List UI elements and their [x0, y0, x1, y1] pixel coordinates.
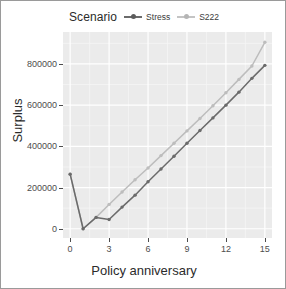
- legend-label-stress: Stress: [146, 12, 170, 22]
- data-point: [237, 78, 240, 81]
- y-tick-label: 800000: [1, 59, 57, 69]
- legend-item-s222[interactable]: S222: [177, 10, 219, 24]
- gridlines-minor: [63, 32, 272, 238]
- legend-key-stress-icon: [124, 10, 142, 24]
- y-tick-label: 200000: [1, 183, 57, 193]
- data-point: [263, 41, 266, 44]
- plot-area: [63, 32, 272, 238]
- x-tick-label: 6: [146, 244, 151, 254]
- y-tick-label: 0: [1, 224, 57, 234]
- data-point: [185, 142, 188, 145]
- x-tick-mark: [187, 238, 188, 242]
- data-point: [250, 64, 253, 67]
- data-point: [146, 180, 149, 183]
- legend-title: Scenario: [69, 10, 117, 24]
- x-tick-mark: [265, 238, 266, 242]
- data-point: [263, 64, 266, 67]
- x-tick-label: 15: [260, 244, 270, 254]
- x-tick-label: 9: [184, 244, 189, 254]
- x-tick-mark: [109, 238, 110, 242]
- data-point: [159, 154, 162, 157]
- legend-label-s222: S222: [199, 12, 219, 22]
- x-tick-mark: [148, 238, 149, 242]
- legend-item-stress[interactable]: Stress: [124, 10, 170, 24]
- data-point: [81, 227, 84, 230]
- data-point: [211, 104, 214, 107]
- data-point: [120, 190, 123, 193]
- chart-figure: Scenario Stress S222 Surplus Policy anni…: [0, 0, 286, 289]
- data-point: [159, 167, 162, 170]
- plot-panel: [63, 32, 272, 238]
- data-point: [224, 91, 227, 94]
- data-point: [237, 90, 240, 93]
- x-tick-label: 3: [107, 244, 112, 254]
- data-point: [68, 172, 71, 175]
- data-point: [198, 129, 201, 132]
- x-tick-mark: [226, 238, 227, 242]
- data-point: [133, 178, 136, 181]
- data-point: [224, 103, 227, 106]
- data-point: [172, 155, 175, 158]
- data-point: [94, 216, 97, 219]
- chart-legend: Scenario Stress S222: [1, 7, 286, 27]
- data-point: [133, 193, 136, 196]
- data-point: [107, 203, 110, 206]
- y-tick-label: 600000: [1, 100, 57, 110]
- data-point: [107, 218, 110, 221]
- x-tick-label: 12: [221, 244, 231, 254]
- x-tick-label: 0: [68, 244, 73, 254]
- x-tick-mark: [70, 238, 71, 242]
- data-point: [250, 77, 253, 80]
- data-point: [172, 142, 175, 145]
- x-axis-title: Policy anniversary: [1, 263, 286, 278]
- data-point: [211, 116, 214, 119]
- y-axis-title: Surplus: [10, 61, 25, 181]
- data-point: [185, 129, 188, 132]
- data-point: [146, 166, 149, 169]
- legend-key-s222-icon: [177, 10, 195, 24]
- data-point: [198, 117, 201, 120]
- data-point: [120, 205, 123, 208]
- y-tick-label: 400000: [1, 141, 57, 151]
